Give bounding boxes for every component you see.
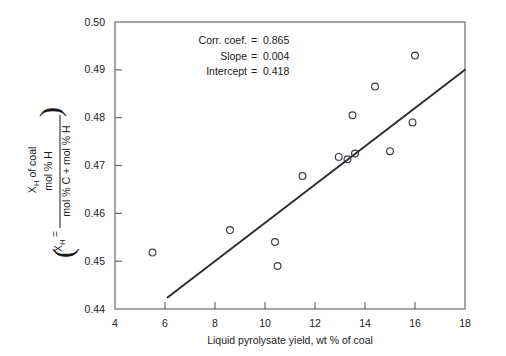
regression-line [168,70,466,298]
x-tick-label: 10 [259,317,271,329]
scatter-plot-figure: 0.440.450.460.470.480.490.50 46810121416… [0,0,506,356]
x-tick-label: 6 [162,317,168,329]
y-axis-title-main: XH of coal [26,147,41,194]
annotation-equals: = [251,65,257,77]
y-tick-label: 0.48 [85,111,106,123]
statistics-annotation: Corr. coef.=0.865Slope=0.004Intercept=0.… [199,34,290,77]
annotation-equals: = [251,50,257,62]
fraction-denominator: mol % C + mol % H [60,125,72,216]
annotation-value: 0.004 [263,50,289,62]
fraction-numerator: mol % H [42,151,54,191]
data-point [335,153,342,160]
data-point [272,239,279,246]
x-tick-label: 18 [459,317,471,329]
annotation-equals: = [251,34,257,46]
data-point [349,112,356,119]
x-tick-label: 16 [409,317,421,329]
x-tick-label: 4 [112,317,118,329]
data-point-group [149,52,418,269]
annotation-label: Slope [220,50,247,62]
y-tick-label: 0.47 [85,159,106,171]
x-tick-label: 8 [212,317,218,329]
plot-frame [115,22,465,309]
y-axis-equals: = [49,231,61,237]
annotation-value: 0.418 [263,65,289,77]
data-point [227,227,234,234]
y-tick-label: 0.49 [85,63,106,75]
y-tick-label: 0.45 [85,255,106,267]
x-tick-label: 14 [359,317,371,329]
x-axis-ticks: 4681012141618 [112,302,471,329]
y-tick-label: 0.50 [85,16,106,28]
y-axis-ticks: 0.440.450.460.470.480.490.50 [85,16,122,315]
x-axis-title: Liquid pyrolysate yield, wt % of coal [207,334,373,346]
chart-canvas: 0.440.450.460.470.480.490.50 46810121416… [0,0,506,356]
annotation-value: 0.865 [263,34,289,46]
annotation-label: Intercept [206,65,247,77]
annotation-label: Corr. coef. [199,34,247,46]
y-tick-label: 0.46 [85,207,106,219]
data-point [274,263,281,270]
y-axis-title: XH of coal ( XH = mol % H mol % C + mol … [26,107,80,258]
data-point [299,173,306,180]
y-tick-label: 0.44 [85,303,106,315]
x-tick-label: 12 [309,317,321,329]
data-point [409,119,416,126]
data-point [149,249,156,256]
data-point [387,148,394,155]
data-point [412,52,419,59]
data-point [372,83,379,90]
close-paren: ) [33,107,67,117]
